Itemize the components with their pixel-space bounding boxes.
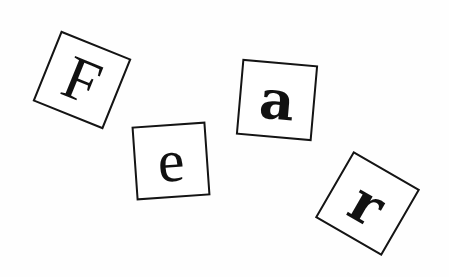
letter-e: e <box>156 130 187 192</box>
letter-tile-e: e <box>132 122 211 201</box>
letter-a: a <box>257 72 297 129</box>
letter-f: F <box>54 45 109 115</box>
letter-tile-a: a <box>236 59 318 141</box>
letter-tile-r: r <box>314 150 419 255</box>
image-canvas: F e a r <box>0 0 449 277</box>
letter-tile-f: F <box>33 31 132 130</box>
letter-r: r <box>340 171 394 234</box>
